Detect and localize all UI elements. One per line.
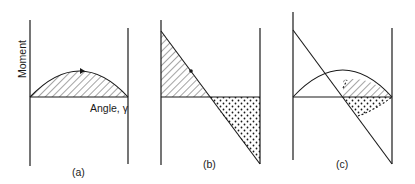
- panel-a: Moment Angle, γ (a): [16, 20, 129, 178]
- dotted-area: [343, 97, 392, 116]
- moment-angle-diagram: Moment Angle, γ (a) (b) (c): [0, 0, 415, 184]
- hatched-area: [343, 79, 392, 97]
- caption-c: (c): [336, 158, 348, 170]
- y-axis-label: Moment: [16, 40, 28, 78]
- x-axis-label: Angle, γ: [90, 102, 129, 114]
- arrow-icon: [189, 69, 193, 73]
- panel-b: (b): [161, 20, 260, 170]
- caption-b: (b): [203, 158, 216, 170]
- caption-a: (a): [72, 166, 85, 178]
- panel-c: (c): [293, 12, 392, 170]
